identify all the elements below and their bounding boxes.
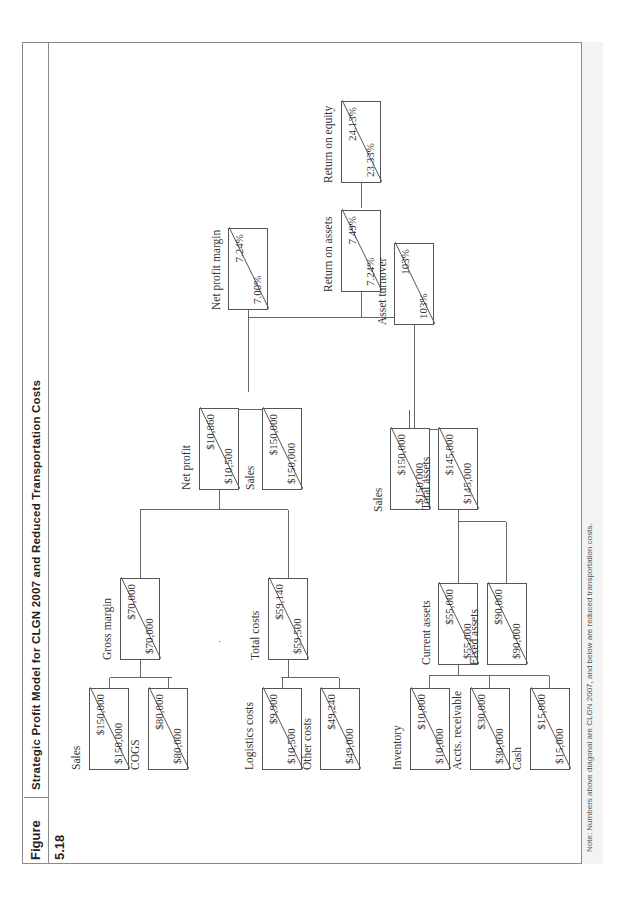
connector [458,665,459,676]
connector [549,676,550,688]
node-logistics-costs: $10,500 $9,900 [262,688,302,770]
node-sales-npm: $150,000 $150,000 [262,408,302,490]
node-label: Accts. receivable [451,691,463,770]
node-net-profit: $10,500 $10,860 [199,408,239,490]
connector [414,325,415,430]
value-2007: 23.33% [364,143,376,177]
value-reduced: $10,860 [204,414,216,450]
connector [288,510,289,578]
connector [282,678,283,688]
node-return-on-assets: 7.24% 7.49% [341,210,381,292]
value-reduced: $30,000 [475,694,487,730]
connector [361,183,362,208]
connector [110,677,168,678]
node-label: Sales [244,466,256,490]
node-net-profit-margin: 7.00% 7.24% [228,228,268,310]
value-reduced: $55,000 [443,589,455,625]
value-2007: $10,500 [222,448,234,484]
connector [489,676,490,688]
connector [288,660,289,678]
connector [458,522,459,583]
value-reduced: $150,000 [94,694,106,735]
value-2007: 103% [417,293,429,319]
node-label: Sales [372,488,384,512]
value-reduced: $15,000 [535,694,547,730]
node-return-on-equity: 23.33% 24.13% [341,101,381,183]
node-label: Net profit margin [210,230,222,310]
value-reduced: 7.24% [233,234,245,262]
value-2007: $145,000 [461,463,473,504]
connector [219,641,220,642]
node-total-costs: $59,500 $59,140 [268,578,308,660]
figure-title: Strategic Profit Model for CLGN 2007 and… [24,380,48,790]
value-2007: $10,000 [433,728,445,764]
node-label: Net profit [180,445,192,490]
value-reduced: $70,000 [125,584,137,620]
value-reduced: $150,000 [395,434,407,475]
value-2007: $150,000 [285,443,297,484]
connector [339,678,340,688]
rotated-page: Figure 5.18 Strategic Profit Model for C… [0,0,621,902]
connector [361,292,362,318]
value-2007: $49,000 [343,728,355,764]
connector [429,676,430,688]
value-reduced: $90,000 [492,589,504,625]
value-2007: $80,000 [171,728,183,764]
node-label: Total assets [420,457,432,510]
node-sales-gm: $150,000 $150,000 [89,688,129,770]
value-reduced: $145,000 [443,434,455,475]
value-reduced: $49,240 [325,694,337,730]
value-reduced: 24.13% [346,107,358,141]
figure-note: Note: Numbers above diagonal are CLGN 20… [585,523,594,852]
node-label: Gross margin [101,598,113,660]
value-2007: $30,000 [493,728,505,764]
connector [140,509,288,510]
node-gross-margin: $70,000 $70,000 [120,578,160,660]
value-2007: 7.24% [364,258,376,286]
node-other-costs: $49,000 $49,240 [320,688,360,770]
connector [140,510,141,578]
node-label: Sales [70,746,82,770]
value-2007: $59,500 [291,618,303,654]
connector [409,410,410,428]
connector [168,678,169,688]
value-2007: $10,500 [285,728,297,764]
value-reduced: $150,000 [267,414,279,455]
node-label: Fixed assets [468,609,480,665]
node-label: Other costs [301,718,313,770]
value-reduced: $10,000 [415,694,427,730]
value-2007: $90,000 [510,623,522,659]
node-label: Return on equity [322,106,334,183]
value-2007: $15,000 [553,728,565,764]
connector [506,522,507,583]
connector [248,317,414,318]
node-cogs: $80,000 $80,000 [148,688,188,770]
node-label: Current assets [420,600,432,665]
value-reduced: $59,140 [273,584,285,620]
connector [109,678,110,688]
value-reduced: $9,900 [267,694,279,724]
node-label: Asset turnover [376,258,388,325]
figure-number: Figure 5.18 [24,797,48,860]
value-2007: 7.00% [251,276,263,304]
node-inventory: $10,000 $10,000 [410,688,450,770]
node-cash: $15,000 $15,000 [530,688,570,770]
value-reduced: 7.49% [346,216,358,244]
connector [281,677,339,678]
connector [458,521,506,522]
node-asset-turnover: 103% 103% [394,243,434,325]
connector [140,660,141,678]
node-label: Cash [511,747,523,770]
value-reduced: $80,000 [153,694,165,730]
value-reduced: 103% [399,249,411,275]
node-fixed-assets: $90,000 $90,000 [487,583,527,665]
connector [219,490,220,510]
node-label: Logistics costs [243,702,255,770]
node-label: Return on assets [322,217,334,292]
node-label: Total costs [249,611,261,660]
value-2007: $70,000 [143,618,155,654]
node-total-assets: $145,000 $145,000 [438,428,478,510]
node-label: COGS [129,739,141,770]
node-accts-receivable: $30,000 $30,000 [470,688,510,770]
node-label: Inventory [391,725,403,770]
